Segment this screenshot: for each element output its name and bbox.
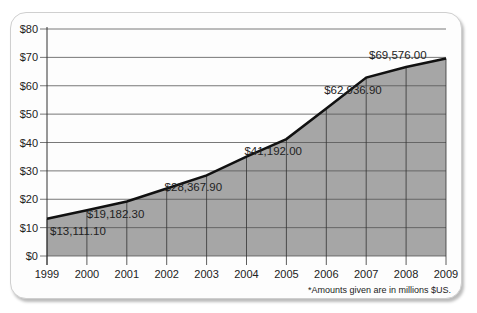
data-label: $41,192.00: [244, 145, 302, 157]
y-tick-label: $50: [20, 108, 38, 120]
y-tick-label: $10: [20, 222, 38, 234]
x-tick-label: 2007: [354, 268, 378, 280]
data-label: $28,367.90: [165, 181, 223, 193]
x-tick-label: 2004: [234, 268, 258, 280]
data-label: $62,936.90: [324, 84, 382, 96]
y-tick-label: $20: [20, 193, 38, 205]
data-label: $19,182.30: [87, 208, 145, 220]
x-tick-label: 2009: [434, 268, 458, 280]
x-tick-label: 1999: [35, 268, 59, 280]
y-tick-label: $80: [20, 23, 38, 35]
data-label: $69,576.00: [369, 49, 427, 61]
y-tick-label: $60: [20, 80, 38, 92]
x-tick-label: 2001: [115, 268, 139, 280]
x-tick-label: 2005: [274, 268, 298, 280]
area-chart: $0$10$20$30$40$50$60$70$8019992000200120…: [0, 0, 477, 313]
x-tick-label: 2002: [154, 268, 178, 280]
x-tick-label: 2003: [194, 268, 218, 280]
y-tick-label: $40: [20, 137, 38, 149]
y-tick-label: $0: [26, 250, 38, 262]
y-tick-label: $70: [20, 51, 38, 63]
y-tick-label: $30: [20, 165, 38, 177]
data-label: $13,111.10: [50, 225, 106, 237]
x-tick-label: 2008: [394, 268, 418, 280]
x-tick-label: 2000: [75, 268, 99, 280]
x-tick-label: 2006: [314, 268, 338, 280]
footnote: *Amounts given are in millions $US.: [308, 285, 451, 295]
